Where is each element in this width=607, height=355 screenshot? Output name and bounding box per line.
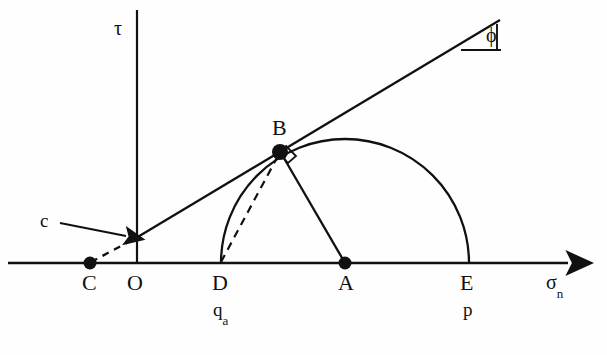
point-label-o: O (127, 272, 143, 294)
label-cohesion-c: c (40, 211, 48, 230)
point-label-c: C (82, 272, 97, 294)
cohesion-dashed-extension (91, 238, 136, 262)
point-dot-c (84, 257, 97, 270)
radius-line-ab (281, 153, 345, 263)
label-friction-angle-phi: ϕ (486, 25, 497, 45)
point-label-b: B (272, 117, 287, 139)
point-label-d: D (212, 272, 228, 294)
failure-envelope-line (136, 20, 500, 238)
label-qa: qa (213, 300, 228, 323)
cohesion-annotation-arrow (60, 223, 126, 236)
label-p: p (463, 300, 473, 319)
figure-canvas: τ σn C O D A E B qa p c ϕ (0, 0, 607, 355)
qa-base: q (213, 299, 223, 320)
point-label-e: E (460, 272, 473, 294)
point-dot-b (272, 144, 288, 160)
point-label-a: A (338, 272, 354, 294)
point-dot-a (339, 257, 352, 270)
sigma-subscript-n: n (557, 286, 564, 301)
axis-label-tau: τ (114, 18, 122, 38)
axis-label-sigma-n: σn (546, 272, 563, 296)
sigma-glyph: σ (546, 271, 557, 293)
mohr-coulomb-diagram (0, 0, 607, 355)
mohr-circle-arc (221, 139, 469, 263)
qa-subscript: a (223, 313, 229, 328)
